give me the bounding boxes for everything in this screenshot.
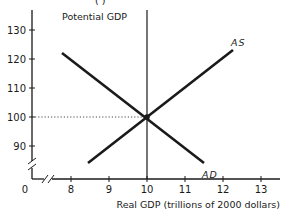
y-axis: 130 120 110 100 90 bbox=[7, 10, 36, 179]
x-tick-label: 12 bbox=[217, 184, 230, 195]
potential-gdp-label: Potential GDP bbox=[62, 11, 127, 22]
x-axis: 0 8 9 10 11 12 13 Real GDP (trillions of… bbox=[22, 175, 280, 210]
ad-curve: AD bbox=[62, 53, 218, 180]
as-label: AS bbox=[230, 37, 246, 48]
x-tick-label: 8 bbox=[68, 184, 74, 195]
y-tick-label: 120 bbox=[7, 54, 26, 65]
x-axis-title: Real GDP (trillions of 2000 dollars) bbox=[117, 199, 281, 210]
equilibrium-point bbox=[144, 114, 150, 120]
as-curve: AS bbox=[88, 37, 246, 163]
y-tick-label: 130 bbox=[7, 25, 26, 36]
ad-label: AD bbox=[201, 169, 218, 180]
x-tick-label: 10 bbox=[141, 184, 154, 195]
ad-as-chart: ( ) 130 120 110 100 90 bbox=[0, 0, 288, 219]
potential-gdp-line: Potential GDP bbox=[62, 10, 147, 179]
y-tick-label: 110 bbox=[7, 83, 26, 94]
y-tick-label: 100 bbox=[7, 112, 26, 123]
x-tick-label: 11 bbox=[179, 184, 192, 195]
x-tick-label: 9 bbox=[106, 184, 112, 195]
top-cutoff-text: ( ) bbox=[95, 0, 105, 6]
y-tick-label: 90 bbox=[13, 141, 26, 152]
x-tick-label: 13 bbox=[255, 184, 268, 195]
origin-label: 0 bbox=[22, 184, 28, 195]
